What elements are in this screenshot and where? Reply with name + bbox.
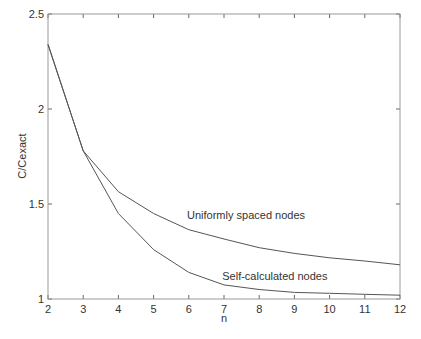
x-tick-label: 5 (151, 303, 157, 315)
x-tick-label: 11 (359, 303, 370, 315)
annotation-self-calculated: Self-calculated nodes (222, 270, 328, 282)
series-self-calculated-line (48, 44, 400, 295)
annotation-uniformly-spaced: Uniformly spaced nodes (187, 209, 306, 221)
y-tick-label: 1 (38, 293, 44, 305)
x-tick-label: 8 (256, 303, 262, 315)
y-axis-label: C/Cexact (16, 133, 28, 178)
series-uniformly-spaced-line (48, 44, 400, 264)
x-tick-label: 12 (394, 303, 406, 315)
x-tick-label: 6 (186, 303, 192, 315)
series-group (48, 44, 400, 295)
axis-ticks (48, 14, 400, 299)
y-tick-label: 2.5 (29, 8, 44, 20)
y-tick-labels: 11.522.5 (29, 8, 44, 305)
x-axis-label: n (221, 312, 227, 324)
plot-frame (48, 14, 400, 299)
y-tick-label: 1.5 (29, 198, 44, 210)
x-tick-label: 9 (291, 303, 297, 315)
x-tick-label: 3 (80, 303, 86, 315)
line-chart: 23456789101112 11.522.5 n C/Cexact Unifo… (0, 0, 421, 339)
y-tick-label: 2 (38, 103, 44, 115)
x-tick-label: 4 (115, 303, 121, 315)
x-tick-label: 2 (45, 303, 51, 315)
x-tick-label: 10 (323, 303, 335, 315)
